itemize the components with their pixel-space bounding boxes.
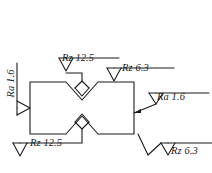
roughness-triangle-top-right-icon	[107, 68, 121, 81]
part-outline	[30, 82, 134, 134]
label-rz-6-3-top: Rz 6.3	[122, 62, 149, 73]
leader-arrowhead-right	[134, 109, 141, 113]
top-notch-diamond-icon-2	[75, 81, 89, 88]
label-ra-1-6-left: Ra 1.6	[5, 69, 16, 97]
label-rz-12-5-bottom: Rz 12.5	[30, 137, 62, 148]
bottom-notch-diamond-icon-2	[75, 122, 89, 129]
leader-bottom-right	[138, 134, 148, 155]
roughness-triangle-bottom-left-icon	[13, 143, 27, 156]
leader-corner-bottom-right	[148, 143, 161, 155]
drawing-canvas: Rz 12.5 Rz 6.3 Ra 1.6 Ra 1.6 Rz 12.5 Rz …	[0, 0, 212, 173]
label-rz-6-3-bottom: Rz 6.3	[171, 145, 198, 156]
label-ra-1-6-right: Ra 1.6	[157, 91, 185, 102]
roughness-triangle-left-icon	[17, 101, 30, 115]
leader-top-left	[66, 73, 82, 81]
label-rz-12-5-top: Rz 12.5	[62, 52, 94, 63]
